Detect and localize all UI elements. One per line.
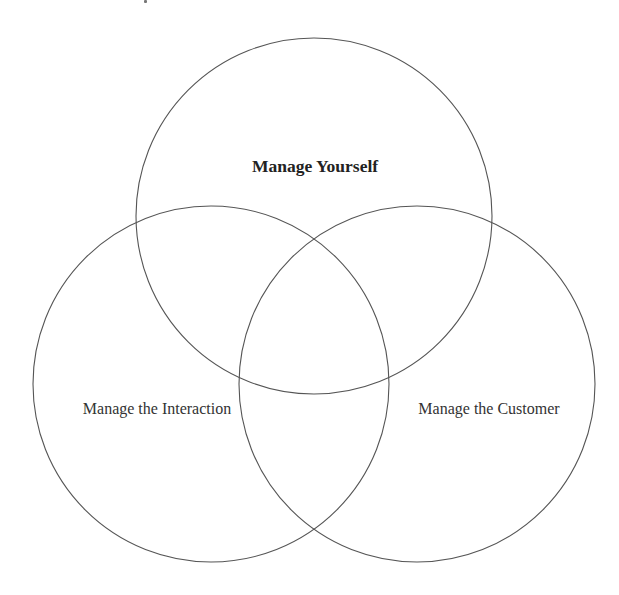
venn-diagram xyxy=(0,0,619,595)
circle-manage-the-interaction xyxy=(33,206,389,562)
label-manage-the-customer: Manage the Customer xyxy=(418,400,559,418)
label-manage-yourself: Manage Yourself xyxy=(252,156,378,177)
circle-manage-yourself xyxy=(136,38,492,394)
label-manage-the-interaction: Manage the Interaction xyxy=(83,400,231,418)
circle-manage-the-customer xyxy=(239,206,595,562)
